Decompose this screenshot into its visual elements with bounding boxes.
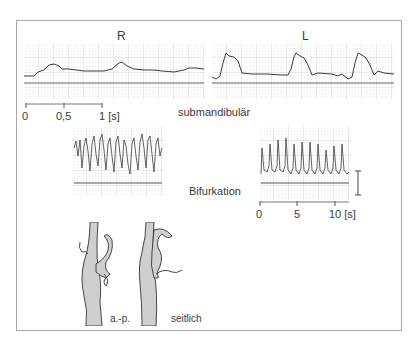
chart-r-submandibular [24,43,204,99]
label-left: L [302,29,309,43]
axis-tick-10s: 10 [s] [329,208,356,220]
time-axis-top [25,103,105,109]
chart-bifurcation-left [72,126,164,196]
time-axis-middle [259,201,351,207]
label-lateral-view: seitlich [171,313,202,324]
axis-tick-5: 5 [294,208,300,220]
axis-tick-0-mid: 0 [256,208,262,220]
chart-bifurcation-right [259,126,351,200]
caption-bifurcation: Bifurkation [189,185,241,197]
caption-submandibular: submandibulär [178,106,250,118]
axis-tick-1s: 1 [s] [99,110,120,122]
vessel-ap-view [76,222,126,326]
scale-bar [354,170,362,196]
chart-l-submandibular [212,43,394,99]
label-ap-view: a.-p. [110,313,130,324]
axis-tick-0-5: 0,5 [56,110,71,122]
axis-tick-0: 0 [22,110,28,122]
label-right: R [117,29,126,43]
vessel-lateral-view [138,222,188,326]
